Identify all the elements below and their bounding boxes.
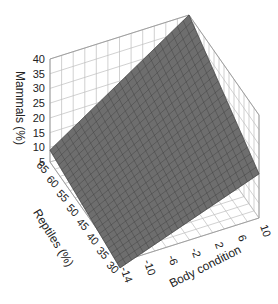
- tick-label: 30: [33, 82, 45, 94]
- tick-label: 55: [54, 187, 71, 204]
- z-axis-label: Mammals (%): [13, 71, 27, 145]
- tick-label: 45: [74, 216, 91, 233]
- tick-label: -14: [118, 265, 135, 284]
- tick-label: 40: [33, 53, 45, 65]
- tick-label: 25: [33, 97, 45, 109]
- tick-label: 20: [33, 112, 45, 124]
- x-axis-label: Body condition: [167, 242, 244, 290]
- tick-label: 35: [33, 68, 45, 80]
- tick-label: 10: [33, 141, 45, 153]
- z-axis-ticks: 510152025303540: [33, 53, 45, 168]
- tick-label: -2: [189, 246, 204, 259]
- tick-label: 10: [258, 223, 273, 239]
- tick-label: 50: [64, 201, 81, 218]
- tick-label: 60: [44, 173, 61, 190]
- tick-label: -10: [142, 258, 159, 277]
- y-axis-label: Reptiles (%): [30, 206, 77, 269]
- tick-label: 6: [236, 233, 249, 243]
- tick-label: 65: [34, 159, 51, 176]
- surface-chart: 510152025303540 3035404550556065 -14-10-…: [0, 0, 278, 304]
- tick-label: 15: [33, 127, 45, 139]
- tick-label: -6: [166, 253, 181, 266]
